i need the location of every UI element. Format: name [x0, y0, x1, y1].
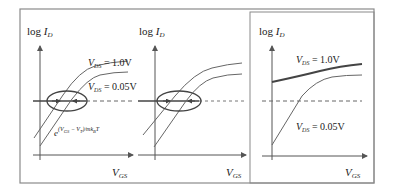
panel-2: log ID VGS	[138, 25, 246, 180]
curve-label-vds-0.05: VDS = 0.05V	[88, 81, 138, 93]
curve-vds-0.05	[272, 75, 362, 145]
x-axis-label: VGS	[112, 166, 128, 180]
curve-lower	[154, 74, 242, 147]
y-axis-label: log ID	[139, 25, 165, 39]
y-axis-label: log ID	[259, 25, 285, 39]
x-axis-label: VGS	[345, 166, 361, 180]
curve-label-vds-1.0: VDS = 1.0V	[296, 54, 341, 66]
panel-3: log ID VDS = 1.0V VDS = 0.05V VGS	[259, 25, 367, 180]
curve-label-vds-0.05: VDS = 0.05V	[296, 121, 346, 133]
x-axis-label: VGS	[226, 166, 242, 180]
curve-vds-1.0	[272, 64, 362, 82]
exponential-formula: e(VGS − VT)/mkBT	[54, 126, 100, 138]
curve-label-vds-1.0: VDS = 1.0V	[88, 57, 133, 69]
outer-frame	[20, 9, 374, 183]
panel-3-frame	[250, 12, 374, 183]
panel-1: log ID VDS = 1.0V VDS = 0.05V e(VGS − VT…	[27, 25, 138, 180]
y-axis-label: log ID	[27, 25, 53, 39]
diagram-canvas: log ID VDS = 1.0V VDS = 0.05V e(VGS − VT…	[0, 0, 393, 193]
